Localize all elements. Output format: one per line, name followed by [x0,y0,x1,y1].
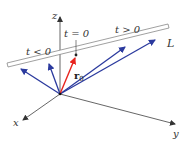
t-neg-label: t < 0 [26,46,52,57]
line-vector-diagram: z x y L t < 0 t = 0 t > 0 r0 [0,0,186,147]
r0-label: r0 [74,70,84,83]
r0-subscript: 0 [79,75,83,83]
line-L-label: L [166,37,174,50]
y-axis [60,94,175,124]
vector-t-neg-1 [21,69,60,94]
origin-point [59,93,62,96]
t-pos-label: t > 0 [115,24,141,35]
z-axis-label: z [51,10,58,21]
point-t-zero [75,54,78,57]
t-zero-label: t = 0 [64,28,90,39]
x-axis-label: x [13,117,19,128]
x-axis [23,94,60,120]
y-axis-label: y [172,128,179,139]
vector-t-neg-2 [49,64,60,94]
